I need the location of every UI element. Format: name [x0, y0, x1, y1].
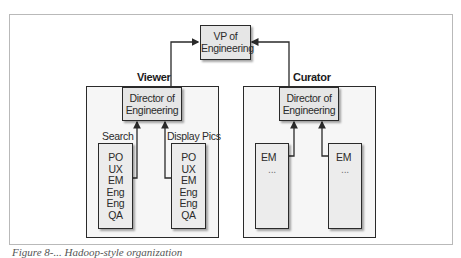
vp-label-line1: VP of	[201, 30, 250, 42]
member-eng: Eng	[99, 198, 132, 210]
member-em: EM	[172, 175, 205, 187]
team-label-display-pics: Display Pics	[167, 130, 221, 142]
figure-caption: Figure 8-... Hadoop-style organization	[12, 246, 182, 258]
director-label-line1: Director of	[280, 92, 338, 104]
team-label-search: Search	[102, 130, 133, 142]
curator-team-2-box: EM ...	[328, 143, 362, 229]
member-eng: Eng	[172, 198, 205, 210]
vp-label-line2: Engineering	[201, 42, 250, 54]
curator-team-1-box: EM ...	[255, 143, 289, 229]
team-display-pics-box: PO UX EM Eng Eng QA	[171, 143, 206, 229]
member-em: EM	[99, 175, 132, 187]
director-label-line2: Engineering	[123, 104, 181, 116]
member-em: EM	[329, 152, 361, 164]
member-qa: QA	[172, 210, 205, 222]
member-em: EM	[256, 152, 288, 164]
member-ellipsis: ...	[329, 164, 361, 176]
viewer-director-box: Director of Engineering	[122, 87, 182, 121]
member-ellipsis: ...	[256, 164, 288, 176]
team-search-box: PO UX EM Eng Eng QA	[98, 143, 133, 229]
member-po: PO	[99, 152, 132, 164]
vp-engineering-box: VP of Engineering	[200, 25, 251, 60]
member-po: PO	[172, 152, 205, 164]
director-label-line1: Director of	[123, 92, 181, 104]
member-qa: QA	[99, 210, 132, 222]
director-label-line2: Engineering	[280, 104, 338, 116]
curator-director-box: Director of Engineering	[279, 87, 339, 121]
